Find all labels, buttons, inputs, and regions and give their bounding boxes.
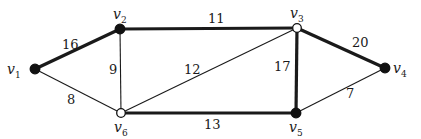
vertex-label-v6: v6 [114, 119, 128, 138]
vertex-v4-filled [380, 63, 390, 73]
vertex-v6-hollow [117, 109, 126, 118]
vertex-label-v4: v4 [393, 60, 407, 79]
edge-weight-v6-v3: 12 [184, 62, 201, 77]
edge-weight-v2-v3: 11 [208, 11, 225, 26]
vertices-layer [30, 24, 390, 118]
edge-v6-v3 [121, 28, 297, 113]
weighted-graph-diagram: 161120171389127 v1v2v3v4v5v6 [0, 0, 421, 139]
edge-v5-v4 [296, 68, 385, 113]
edge-weight-v1-v2: 16 [62, 37, 79, 52]
vertex-v3-hollow [293, 24, 302, 33]
edge-weight-v1-v6: 8 [67, 92, 75, 107]
vertex-v5-filled [291, 108, 301, 118]
vertex-v2-filled [115, 24, 125, 34]
edge-weight-v3-v4: 20 [352, 35, 369, 50]
vertex-label-v2: v2 [113, 6, 127, 25]
vertex-v1-filled [30, 64, 40, 74]
vertex-label-v5: v5 [289, 119, 303, 138]
vertex-label-v1: v1 [7, 61, 21, 80]
edges-layer [35, 28, 385, 113]
edge-v2-v6 [120, 29, 121, 113]
edge-weight-v6-v5: 13 [204, 117, 221, 132]
edge-weight-v3-v5: 17 [274, 59, 291, 74]
edge-v3-v5 [296, 28, 297, 113]
edge-v3-v4 [297, 28, 385, 68]
edge-weight-v2-v6: 9 [109, 62, 117, 77]
edge-weight-v5-v4: 7 [346, 86, 354, 101]
edge-v2-v3 [120, 28, 297, 29]
vertex-label-v3: v3 [290, 5, 304, 24]
